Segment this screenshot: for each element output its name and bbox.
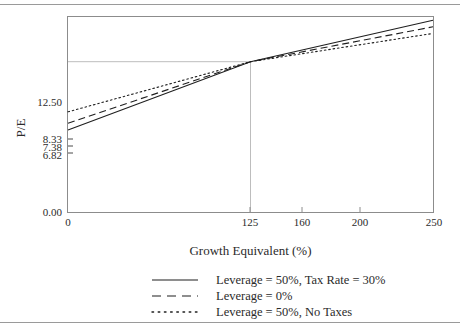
plot-area-frame (67, 16, 434, 213)
xtick-label-200: 200 (345, 217, 375, 228)
legend-swatch-dashed-line (150, 290, 208, 302)
legend-item-dotted: Leverage = 50%, No Taxes (150, 304, 450, 320)
bottom-divider-rule (0, 322, 460, 323)
legend-label-dotted: Leverage = 50%, No Taxes (208, 305, 352, 320)
top-divider-rule (0, 4, 460, 5)
legend-swatch-dotted-line (150, 306, 208, 318)
figure: 12.50 8.33 7.38 6.82 0.00 0 125 160 200 … (0, 0, 460, 335)
x-axis-label: Growth Equivalent (%) (67, 243, 434, 259)
xtick-label-160: 160 (287, 217, 317, 228)
legend-item-dashed: Leverage = 0% (150, 288, 450, 304)
legend-swatch-solid-line (150, 274, 208, 286)
xtick-label-125: 125 (235, 217, 265, 228)
xtick-label-0: 0 (53, 217, 83, 228)
chart-legend: Leverage = 50%, Tax Rate = 30% Leverage … (150, 272, 450, 320)
legend-label-dashed: Leverage = 0% (208, 289, 292, 304)
legend-label-solid: Leverage = 50%, Tax Rate = 30% (208, 273, 386, 288)
y-axis-label: P/E (13, 98, 29, 158)
xtick-label-250: 250 (419, 217, 449, 228)
legend-item-solid: Leverage = 50%, Tax Rate = 30% (150, 272, 450, 288)
